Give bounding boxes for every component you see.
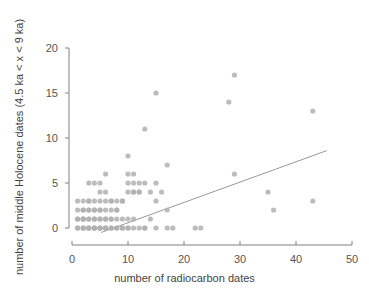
y-tick-label: 5 — [36, 178, 58, 189]
scatter-plot-figure: 01020304050 05101520 number of radiocarb… — [0, 0, 369, 298]
y-tick-label: 20 — [36, 43, 58, 54]
x-tick-label: 10 — [122, 254, 134, 265]
y-axis-title: number of middle Holocene dates (4.5 ka … — [13, 0, 25, 297]
x-tick-label: 40 — [290, 254, 302, 265]
y-tick-label: 10 — [36, 133, 58, 144]
x-tick-label: 30 — [234, 254, 246, 265]
y-tick-label: 15 — [36, 88, 58, 99]
x-axis-title: number of radiocarbon dates — [0, 272, 369, 284]
axis-lines — [65, 48, 352, 245]
x-tick-label: 0 — [69, 254, 75, 265]
x-tick-label: 20 — [178, 254, 190, 265]
data-points — [75, 72, 315, 230]
y-tick-label: 0 — [36, 223, 58, 234]
plot-area: 01020304050 05101520 — [0, 0, 369, 298]
x-tick-label: 50 — [346, 254, 358, 265]
